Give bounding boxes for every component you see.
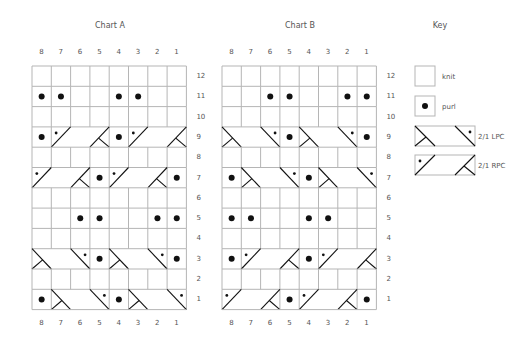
- key-label-knit: knit: [442, 73, 455, 81]
- key-label-lpc: 2/1 LPC: [478, 133, 505, 141]
- key-label-purl: purl: [442, 103, 456, 111]
- key-symbols: [0, 0, 532, 340]
- key-label-rpc: 2/1 RPC: [478, 162, 505, 170]
